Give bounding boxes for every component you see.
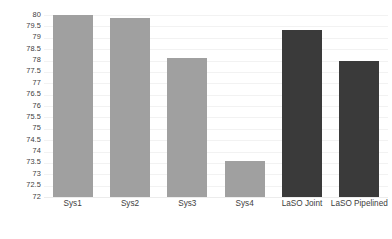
- bar: [167, 58, 207, 197]
- x-axis-tick-label: Sys1: [44, 199, 101, 209]
- x-axis-tick-label: Sys3: [159, 199, 216, 209]
- y-axis-tick-label: 76.5: [0, 90, 41, 97]
- plot-area: [44, 15, 388, 197]
- y-axis-tick-label: 77: [0, 79, 41, 86]
- y-axis: 8079.57978.57877.57776.57675.57574.57473…: [0, 11, 41, 197]
- y-axis-tick-label: 79: [0, 33, 41, 40]
- bar: [339, 61, 379, 196]
- bar: [110, 18, 150, 197]
- y-axis-tick-label: 73.5: [0, 158, 41, 165]
- y-axis-tick-label: 74.5: [0, 136, 41, 143]
- y-axis-tick-label: 76: [0, 102, 41, 109]
- x-axis-tick-label: LaSO Pipelined: [331, 199, 388, 209]
- bar: [282, 30, 322, 196]
- x-axis-tick-label: Sys2: [101, 199, 158, 209]
- bar: [225, 161, 265, 196]
- x-axis-tick-label: LaSO Joint: [273, 199, 330, 209]
- bar-series: [44, 15, 388, 197]
- y-axis-tick-label: 75: [0, 124, 41, 131]
- y-axis-tick-label: 72.5: [0, 181, 41, 188]
- y-axis-tick-label: 74: [0, 147, 41, 154]
- bar-chart: 8079.57978.57877.57776.57675.57574.57473…: [0, 0, 392, 239]
- y-axis-tick-label: 78: [0, 56, 41, 63]
- y-axis-tick-label: 73: [0, 170, 41, 177]
- y-axis-tick-label: 78.5: [0, 45, 41, 52]
- y-axis-tick-label: 80: [0, 11, 41, 18]
- x-axis: Sys1Sys2Sys3Sys4LaSO JointLaSO Pipelined: [44, 199, 388, 237]
- x-axis-tick-label: Sys4: [216, 199, 273, 209]
- y-axis-tick-label: 72: [0, 193, 41, 200]
- bar: [53, 15, 93, 197]
- axis-baseline: [44, 197, 388, 198]
- y-axis-tick-label: 77.5: [0, 67, 41, 74]
- y-axis-tick-label: 75.5: [0, 113, 41, 120]
- y-axis-tick-label: 79.5: [0, 22, 41, 29]
